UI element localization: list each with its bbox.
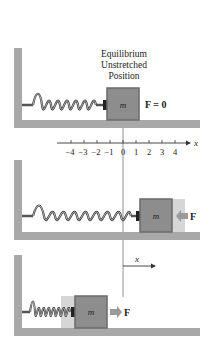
force-label: F: [124, 307, 130, 318]
tick-label: 2: [147, 147, 151, 157]
tick-label: −4: [65, 147, 75, 157]
axis-label: x: [193, 138, 198, 148]
floor: [14, 328, 200, 336]
wall: [14, 255, 22, 336]
displacement-indicator: x: [123, 254, 155, 266]
tick-label: −1: [104, 147, 113, 157]
spring: [22, 206, 140, 222]
wall: [14, 48, 22, 128]
wall: [14, 160, 22, 240]
mass-label: m: [120, 100, 127, 110]
mass-label: m: [153, 211, 160, 221]
title-line-2: Unstretched: [101, 60, 147, 70]
spring-mass-diagram: m F = 0 Equilibrium Unstretched Position…: [0, 0, 211, 349]
force-arrow-right-icon: [110, 306, 122, 318]
position-axis: x −4 −3 −2 −1 0 1 2 3 4: [57, 138, 198, 157]
tick-label: 0: [121, 147, 125, 157]
floor: [14, 120, 200, 128]
tick-label: 1: [134, 147, 138, 157]
panel-compressed: m F: [14, 255, 200, 336]
spring: [22, 94, 107, 110]
floor: [14, 232, 200, 240]
panel-stretched: m F: [14, 160, 200, 240]
mass-label: m: [88, 307, 95, 317]
displacement-label: x: [134, 254, 139, 264]
title-line-1: Equilibrium: [101, 49, 148, 59]
tick-label: 3: [160, 147, 164, 157]
title-line-3: Position: [108, 71, 139, 81]
force-zero-label: F = 0: [145, 99, 166, 110]
tick-label: −3: [78, 147, 87, 157]
tick-label: −2: [91, 147, 100, 157]
force-label: F: [190, 211, 196, 222]
panel-equilibrium: m F = 0 Equilibrium Unstretched Position: [14, 48, 200, 128]
tick-label: 4: [173, 147, 178, 157]
